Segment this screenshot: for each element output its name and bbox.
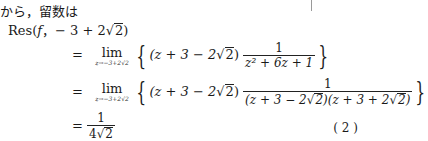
res-sqrt-arg: 2 (114, 23, 123, 37)
equation-number: ( 2 ) (333, 121, 358, 135)
sqrt-icon: √ (216, 47, 224, 62)
intro-text: から，留数は (0, 1, 78, 20)
den-coefficient: 4 (89, 127, 97, 141)
page-divider-line (311, 0, 312, 11)
factor-close: ) (234, 84, 239, 99)
fraction-denominator: (z + 3 − 2√2)(z + 3 + 2√2) (243, 91, 412, 107)
den-factor-b-sqrt: 2 (397, 93, 406, 106)
res-func: Res (8, 23, 32, 38)
lim-label: lim (95, 82, 129, 95)
equation-row-2: = lim z→−3+2√2 {(z + 3 − 2√2) 1 (z + 3 −… (72, 78, 428, 106)
res-comma: ， (42, 23, 55, 38)
limit-operator: lim z→−3+2√2 (95, 82, 129, 102)
res-point: − 3 + 2 (55, 23, 106, 38)
factor-prefix: (z + 3 − 2 (150, 84, 217, 99)
den-factor-a-sqrt: 2 (314, 93, 323, 106)
left-brace-icon: { (136, 79, 146, 105)
factor-sqrt: 2 (225, 84, 234, 98)
right-brace-icon: } (416, 79, 426, 105)
fraction: 1 z² + 6z + 1 (243, 42, 315, 69)
factor-prefix: (z + 3 − 2 (150, 47, 217, 62)
fraction: 1 4√2 (87, 112, 115, 140)
fraction-numerator: 1 (243, 78, 412, 91)
fraction-numerator: 1 (243, 42, 315, 55)
equation-row-1: = lim z→−3+2√2 {(z + 3 − 2√2) 1 z² + 6z … (72, 42, 332, 69)
den-factor-b: (z + 3 + 2 (328, 93, 390, 107)
den-factor-b-close: ) (406, 93, 411, 107)
limit-operator: lim z→−3+2√2 (95, 46, 129, 66)
residue-expression: Res(f，− 3 + 2√2) (8, 20, 128, 39)
den-sqrt: 2 (104, 127, 113, 140)
lim-label: lim (95, 46, 129, 59)
equals-sign: = (72, 84, 83, 99)
fraction-numerator: 1 (87, 112, 115, 125)
equals-sign: = (72, 118, 83, 133)
sqrt-icon: √ (216, 84, 224, 99)
equals-sign: = (72, 47, 83, 62)
right-brace-icon: } (319, 43, 329, 69)
equation-row-3: = 1 4√2 (72, 112, 115, 140)
sqrt-icon: √ (97, 127, 105, 141)
sqrt-icon: √ (106, 23, 114, 38)
left-brace-icon: { (136, 43, 146, 69)
fraction-denominator: z² + 6z + 1 (243, 55, 315, 70)
sqrt-icon: √ (307, 93, 315, 107)
lim-subscript: z→−3+2√2 (95, 60, 129, 66)
fraction-denominator: 4√2 (87, 125, 115, 141)
res-close-paren: ) (123, 23, 128, 38)
den-factor-a: (z + 3 − 2 (245, 93, 307, 107)
lim-subscript: z→−3+2√2 (95, 96, 129, 102)
factor-close: ) (234, 47, 239, 62)
sqrt-icon: √ (389, 93, 397, 107)
fraction: 1 (z + 3 − 2√2)(z + 3 + 2√2) (243, 78, 412, 106)
factor-sqrt: 2 (225, 47, 234, 61)
